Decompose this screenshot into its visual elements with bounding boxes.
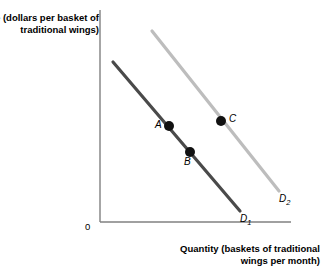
curve-label-d2-sub: 2: [286, 198, 290, 207]
curve-label-d2: D2: [279, 193, 290, 207]
demand-curves-group: [113, 31, 279, 211]
point-label-c: C: [229, 113, 236, 124]
point-label-b: B: [184, 156, 191, 167]
data-point-a: [164, 121, 174, 131]
chart-canvas: [0, 0, 324, 277]
x-axis-title: Quantity (baskets of traditional wings p…: [170, 243, 320, 266]
demand-curve-d2: [152, 31, 279, 191]
origin-label: 0: [85, 221, 90, 232]
axes-group: [100, 10, 291, 222]
point-label-a: A: [155, 119, 162, 130]
curve-label-d1: D1: [240, 213, 251, 227]
demand-curve-figure: Price (dollars per basket of traditional…: [0, 0, 324, 277]
demand-curve-d1: [113, 62, 240, 211]
curve-label-d1-sub: 1: [247, 218, 251, 227]
data-point-c: [216, 116, 226, 126]
y-axis-title: Price (dollars per basket of traditional…: [0, 12, 99, 35]
data-points-group: [164, 116, 226, 157]
